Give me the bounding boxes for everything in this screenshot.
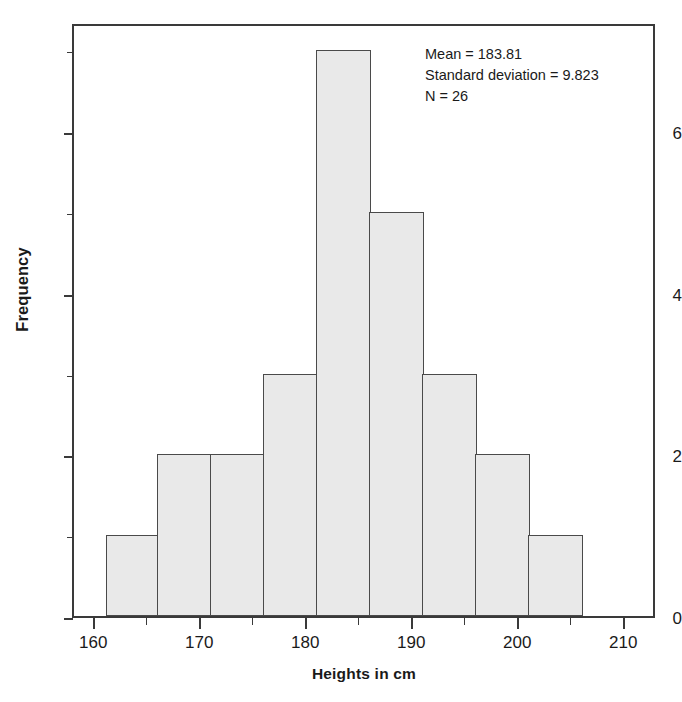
histogram-bar	[316, 50, 371, 616]
annotation-mean: Mean = 183.81	[425, 44, 599, 65]
histogram-bar	[422, 374, 477, 616]
y-axis-tick	[64, 618, 73, 620]
x-axis-minor-tick	[358, 618, 359, 625]
x-axis-tick	[411, 618, 413, 629]
x-axis-tick	[305, 618, 307, 629]
x-axis-tick	[93, 618, 95, 629]
x-axis-minor-tick	[252, 618, 253, 625]
plot-area	[72, 24, 655, 618]
x-axis-tick-label: 210	[588, 634, 658, 651]
x-axis-tick	[623, 618, 625, 629]
histogram-bar	[528, 535, 583, 616]
histogram-bar	[369, 212, 424, 616]
x-axis-tick-label: 160	[58, 634, 128, 651]
histogram-bar	[475, 454, 530, 616]
histogram-bar	[263, 374, 318, 616]
x-axis-tick	[199, 618, 201, 629]
annotation-sample-size: N = 26	[425, 86, 599, 107]
histogram-bars	[74, 26, 653, 616]
x-axis-tick	[517, 618, 519, 629]
statistics-annotation: Mean = 183.81 Standard deviation = 9.823…	[425, 44, 599, 107]
histogram-figure: Frequency 0246 160170180190200210 Height…	[0, 0, 682, 702]
histogram-bar	[106, 535, 159, 616]
histogram-bar	[157, 454, 212, 616]
x-axis-tick-label: 200	[482, 634, 552, 651]
x-axis-tick-label: 170	[164, 634, 234, 651]
x-axis-tick-label: 190	[376, 634, 446, 651]
x-axis-title: Heights in cm	[72, 665, 656, 683]
y-axis-title: Frequency	[13, 220, 32, 360]
x-axis-minor-tick	[146, 618, 147, 625]
x-axis-tick-label: 180	[270, 634, 340, 651]
annotation-standard-deviation: Standard deviation = 9.823	[425, 65, 599, 86]
x-axis-minor-tick	[464, 618, 465, 625]
x-axis-minor-tick	[570, 618, 571, 625]
histogram-bar	[210, 454, 265, 616]
